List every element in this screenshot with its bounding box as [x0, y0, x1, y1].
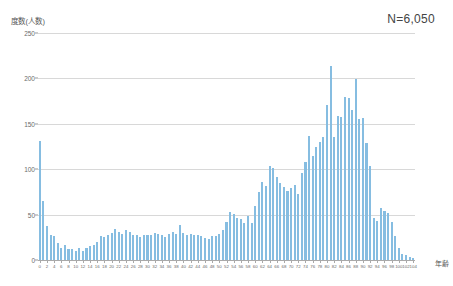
bar	[200, 236, 202, 260]
x-tick-label: 28	[138, 264, 143, 270]
bar	[243, 223, 245, 260]
x-tick-mark	[406, 261, 407, 263]
x-tick-mark	[155, 261, 156, 263]
bar	[186, 235, 188, 260]
bar	[229, 212, 231, 260]
bar	[391, 222, 393, 260]
bar	[251, 223, 253, 260]
x-tick-mark	[183, 261, 184, 263]
bar	[93, 245, 95, 260]
x-tick-mark	[305, 261, 306, 263]
x-tick-label: 40	[181, 264, 186, 270]
bar	[322, 137, 324, 260]
bar	[85, 248, 87, 260]
bar	[340, 117, 342, 260]
bar	[355, 79, 357, 260]
bar	[351, 110, 353, 260]
x-tick-mark	[126, 261, 127, 263]
bar	[290, 188, 292, 260]
x-tick-label: 74	[303, 264, 308, 270]
x-tick-mark	[133, 261, 134, 263]
bar	[71, 249, 73, 260]
x-tick-label: 16	[95, 264, 100, 270]
x-tick-mark	[399, 261, 400, 263]
x-tick-label: 84	[339, 264, 344, 270]
x-tick-mark	[341, 261, 342, 263]
x-tick-mark	[392, 261, 393, 263]
x-tick-mark	[176, 261, 177, 263]
bar	[265, 186, 267, 260]
bar	[276, 177, 278, 260]
sample-size-annotation: N=6,050	[387, 12, 435, 26]
bar	[197, 235, 199, 260]
x-tick-mark	[205, 261, 206, 263]
bar	[362, 118, 364, 260]
x-tick-label: 82	[332, 264, 337, 270]
x-tick-label: 60	[253, 264, 258, 270]
bar	[139, 237, 141, 260]
x-tick-mark	[291, 261, 292, 263]
x-tick-label: 30	[145, 264, 150, 270]
bar	[365, 143, 367, 260]
bar	[312, 156, 314, 260]
bar	[398, 248, 400, 260]
x-tick-label: 90	[360, 264, 365, 270]
x-tick-mark	[148, 261, 149, 263]
x-tick-label: 26	[131, 264, 136, 270]
bar	[190, 234, 192, 260]
bar	[218, 234, 220, 260]
x-tick-mark	[255, 261, 256, 263]
bar	[154, 233, 156, 260]
x-tick-label: 20	[109, 264, 114, 270]
x-tick-mark	[162, 261, 163, 263]
bar	[344, 97, 346, 260]
y-axis-tick-labels: 050100150200250	[14, 33, 35, 260]
x-tick-label: 54	[231, 264, 236, 270]
bar	[240, 219, 242, 260]
bar	[233, 214, 235, 260]
x-tick-label: 98	[389, 264, 394, 270]
x-tick-label: 50	[217, 264, 222, 270]
x-tick-label: 10	[73, 264, 78, 270]
x-tick-label: 52	[224, 264, 229, 270]
x-tick-label: 42	[188, 264, 193, 270]
x-tick-label: 76	[310, 264, 315, 270]
bar	[50, 235, 52, 260]
x-tick-label: 94	[375, 264, 380, 270]
x-tick-label: 88	[353, 264, 358, 270]
x-tick-mark	[363, 261, 364, 263]
x-axis-title: 年齢	[435, 258, 449, 268]
x-tick-label: 80	[325, 264, 330, 270]
x-tick-mark	[212, 261, 213, 263]
x-tick-label: 58	[246, 264, 251, 270]
x-tick-mark	[298, 261, 299, 263]
bar	[143, 235, 145, 260]
bar	[380, 208, 382, 260]
bar	[172, 232, 174, 260]
bar	[42, 201, 44, 260]
x-tick-label: 46	[203, 264, 208, 270]
bar	[132, 235, 134, 260]
bar	[164, 237, 166, 260]
x-tick-label: 62	[260, 264, 265, 270]
x-tick-label: 36	[167, 264, 172, 270]
bar	[269, 166, 271, 260]
x-tick-label: 12	[80, 264, 85, 270]
bar	[53, 236, 55, 260]
bar	[394, 236, 396, 260]
bar	[254, 206, 256, 260]
y-tick-label: 150	[24, 120, 35, 127]
bar	[308, 136, 310, 260]
x-tick-label: 68	[281, 264, 286, 270]
x-tick-label: 34	[159, 264, 164, 270]
bar	[114, 229, 116, 260]
x-tick-label: 104	[410, 264, 417, 270]
x-tick-mark	[384, 261, 385, 263]
x-tick-mark	[241, 261, 242, 263]
x-tick-label: 48	[210, 264, 215, 270]
bar	[301, 173, 303, 260]
x-tick-label: 22	[116, 264, 121, 270]
x-tick-mark	[198, 261, 199, 263]
x-tick-mark	[270, 261, 271, 263]
x-tick-mark	[112, 261, 113, 263]
